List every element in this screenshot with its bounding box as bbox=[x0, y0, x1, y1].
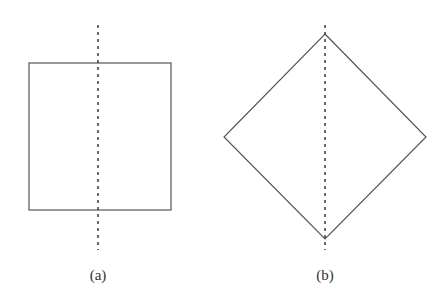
panel-a-label: (a) bbox=[90, 267, 107, 284]
panel-b: (b) bbox=[224, 25, 426, 284]
panel-a: (a) bbox=[29, 25, 171, 284]
figure-canvas: (a) (b) bbox=[0, 0, 448, 299]
square-shape bbox=[29, 63, 171, 210]
panel-b-label: (b) bbox=[316, 267, 334, 284]
